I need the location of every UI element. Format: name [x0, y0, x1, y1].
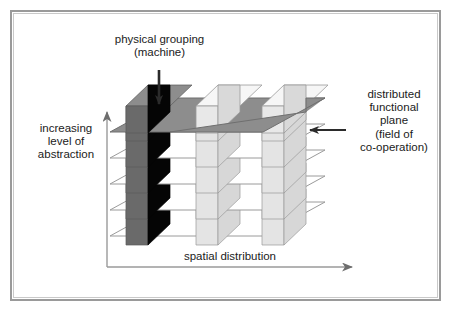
figure-canvas: physical grouping (machine) distributed … [0, 0, 454, 314]
label-distributed-functional-plane: distributed functional plane (field of c… [338, 88, 450, 154]
label-y-axis-increasing-abstraction: increasing level of abstraction [28, 122, 104, 162]
label-x-axis-spatial-distribution: spatial distribution [150, 250, 310, 263]
label-physical-grouping: physical grouping (machine) [92, 33, 227, 59]
column-1-left-face-top [126, 106, 148, 133]
